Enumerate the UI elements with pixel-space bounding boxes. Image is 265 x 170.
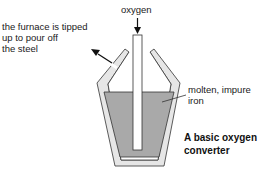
diagram-title-line2: converter: [184, 145, 230, 157]
tipping-label-line2: up to pour off: [2, 33, 58, 44]
oxygen-label: oxygen: [121, 5, 152, 16]
tipping-label-line3: the steel: [2, 44, 38, 55]
oxygen-lance: [133, 35, 142, 150]
molten-label-line1: molten, impure: [188, 85, 251, 96]
arrow-down-icon: [134, 27, 141, 34]
molten-label-line2: iron: [188, 96, 204, 107]
tipping-label-line1: the furnace is tipped: [2, 22, 88, 33]
diagram-title-line1: A basic oxygen: [184, 132, 257, 144]
